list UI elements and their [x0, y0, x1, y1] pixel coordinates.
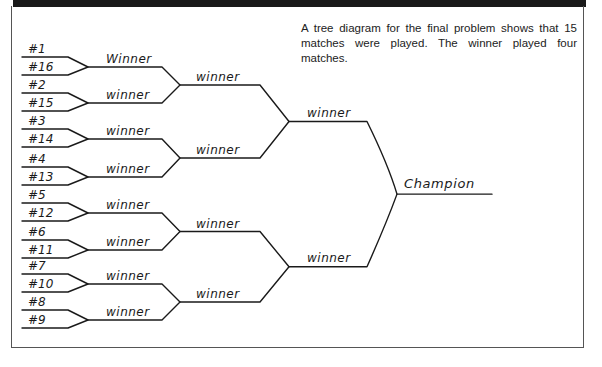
tournament-bracket: #1#16#2#15#3#14#4#13#5#12#6#11#7#10#8#9W…	[0, 0, 602, 367]
seed-label: #11	[28, 243, 53, 257]
semifinal-winner-label: winner	[307, 106, 351, 120]
seed-label: #15	[28, 96, 53, 110]
seed-label: #2	[28, 78, 46, 92]
round1-winner-label: winner	[106, 269, 150, 283]
seed-label: #6	[28, 225, 46, 239]
seed-label: #3	[28, 114, 46, 128]
seed-label: #7	[28, 259, 46, 273]
seed-label: #4	[28, 152, 46, 166]
seed-label: #1	[28, 42, 46, 56]
semifinal-lines	[289, 122, 397, 267]
round1-winner-label: winner	[106, 235, 150, 249]
seed-label: #9	[28, 313, 46, 327]
semifinal-winner-label: winner	[307, 251, 351, 265]
round2-winner-label: winner	[196, 287, 240, 301]
round2-winner-label: winner	[196, 70, 240, 84]
seed-label: #12	[28, 206, 53, 220]
seed-label: #10	[28, 277, 54, 291]
round1-winner-label: winner	[106, 305, 150, 319]
round1-winner-label: winner	[106, 124, 150, 138]
round1-winner-label: winner	[106, 88, 150, 102]
round2-winner-label: winner	[196, 143, 240, 157]
seed-label: #14	[28, 132, 53, 146]
seed-label: #13	[28, 170, 53, 184]
round1-winner-label: Winner	[106, 52, 152, 66]
seed-label: #8	[28, 295, 46, 309]
champion-label: Champion	[404, 176, 475, 191]
round2-winner-label: winner	[196, 217, 240, 231]
round1-winner-label: winner	[106, 162, 150, 176]
round1-winner-label: winner	[106, 198, 150, 212]
seed-label: #5	[28, 188, 46, 202]
seed-label: #16	[28, 60, 54, 74]
